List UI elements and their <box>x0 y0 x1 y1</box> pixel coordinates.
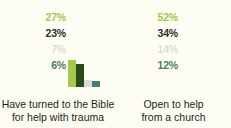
bar-series-3 <box>84 80 92 87</box>
value-label-series-4: 6% <box>4 60 66 76</box>
value-label-series-4: 12% <box>116 60 178 76</box>
bar-series-4 <box>92 81 100 87</box>
caption-line-2: for help with trauma <box>0 111 116 124</box>
bar-series-2 <box>76 64 84 87</box>
grouped-bar-chart: 27% 23% 7% 6% Have turned to the Bible f… <box>0 0 231 128</box>
value-label-series-2: 34% <box>116 28 178 44</box>
bar-set <box>68 27 100 87</box>
caption-line-1: Have turned to the Bible <box>0 98 116 111</box>
value-label-series-3: 7% <box>4 44 66 60</box>
value-label-column: 27% 23% 7% 6% <box>4 12 66 76</box>
caption-line-1: Open to help <box>116 98 231 111</box>
value-label-column: 52% 34% 14% 12% <box>116 12 178 76</box>
value-label-series-3: 14% <box>116 44 178 60</box>
value-label-series-1: 27% <box>4 12 66 28</box>
bar-series-1 <box>68 60 76 87</box>
bar-group-bible: 27% 23% 7% 6% Have turned to the Bible f… <box>0 0 116 128</box>
group-caption: Have turned to the Bible for help with t… <box>0 98 116 124</box>
value-label-series-2: 23% <box>4 28 66 44</box>
value-label-series-1: 52% <box>116 12 178 28</box>
bar-group-church: 52% 34% 14% 12% Open to help from a chur… <box>116 0 231 128</box>
group-caption: Open to help from a church <box>116 98 231 124</box>
caption-line-2: from a church <box>116 111 231 124</box>
